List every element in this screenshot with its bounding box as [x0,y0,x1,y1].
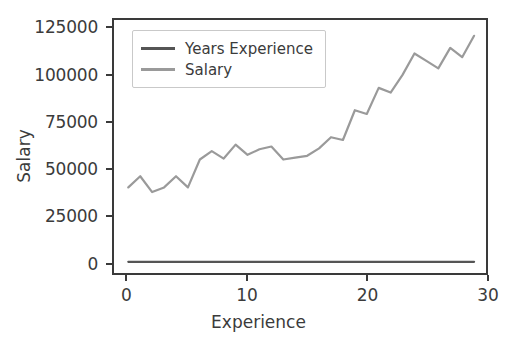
chart-figure: 0250005000075000100000125000 Salary Year… [0,0,517,342]
legend-label: Years Experience [185,40,313,58]
x-tick-mark [246,275,248,281]
y-axis-title: Salary [14,129,34,182]
legend-item[interactable]: Salary [141,59,313,80]
x-axis-title: Experience [0,312,517,332]
y-tick-label: 125000 [0,17,98,37]
x-tick-label: 20 [357,285,379,305]
legend-swatch-icon [141,47,175,50]
y-axis-title-wrapper: Salary [14,96,34,216]
x-tick-mark [366,275,368,281]
y-tick-label: 100000 [0,65,98,85]
legend-swatch-icon [141,68,175,71]
plot-area: Years ExperienceSalary [112,18,488,275]
x-tick-label: 0 [121,285,132,305]
x-tick-label: 10 [236,285,258,305]
chart-legend: Years ExperienceSalary [132,30,326,88]
x-tick-label: 30 [477,285,499,305]
legend-item[interactable]: Years Experience [141,38,313,59]
x-tick-mark [125,275,127,281]
x-tick-mark [487,275,489,281]
y-tick-label: 0 [0,254,98,274]
legend-label: Salary [185,61,232,79]
